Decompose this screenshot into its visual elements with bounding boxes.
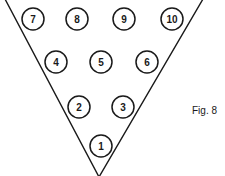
pin-6: 6 bbox=[136, 51, 158, 73]
pin-3: 3 bbox=[112, 96, 134, 118]
pin-number: 10 bbox=[166, 14, 178, 25]
pin-4: 4 bbox=[45, 51, 67, 73]
pin-2: 2 bbox=[68, 96, 90, 118]
pin-number: 5 bbox=[98, 57, 104, 68]
pin-number: 6 bbox=[144, 57, 150, 68]
pin-1: 1 bbox=[90, 135, 112, 157]
pin-8: 8 bbox=[66, 8, 88, 30]
bowling-pin-triangle-diagram: 78910456231 bbox=[0, 0, 225, 176]
pin-number: 9 bbox=[121, 14, 127, 25]
pin-number: 7 bbox=[30, 14, 36, 25]
pin-group: 78910456231 bbox=[22, 8, 183, 157]
pin-9: 9 bbox=[113, 8, 135, 30]
pin-number: 4 bbox=[53, 57, 59, 68]
pin-number: 8 bbox=[74, 14, 80, 25]
pin-7: 7 bbox=[22, 8, 44, 30]
figure-caption: Fig. 8 bbox=[192, 105, 217, 116]
pin-number: 2 bbox=[76, 102, 82, 113]
pin-number: 1 bbox=[98, 141, 104, 152]
pin-10: 10 bbox=[161, 8, 183, 30]
pin-number: 3 bbox=[120, 102, 126, 113]
pin-5: 5 bbox=[90, 51, 112, 73]
triangle-outline bbox=[5, 0, 203, 176]
